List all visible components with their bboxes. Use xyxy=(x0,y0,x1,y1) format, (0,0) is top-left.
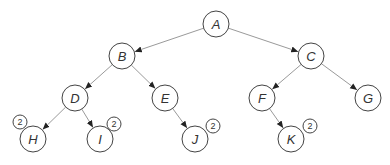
node-h: H2 xyxy=(13,115,46,152)
node-a: A xyxy=(203,11,229,37)
node-label: A xyxy=(211,17,221,32)
node-label: C xyxy=(306,49,316,64)
edge-a-c xyxy=(228,28,298,52)
node-i: I2 xyxy=(87,117,121,152)
node-label: I xyxy=(98,132,102,147)
node-g: G xyxy=(355,85,381,111)
node-c: C xyxy=(298,43,324,69)
edge-f-k xyxy=(270,109,284,128)
node-d: D xyxy=(62,85,88,111)
node-j: J2 xyxy=(182,119,220,152)
node-layer: ABCDEFGH2I2J2K2 xyxy=(13,11,381,152)
edge-d-h xyxy=(43,107,66,129)
edge-b-e xyxy=(131,65,155,88)
edge-d-i xyxy=(82,109,93,127)
edge-a-b xyxy=(135,28,204,51)
node-f: F xyxy=(249,85,275,111)
badge-label: 2 xyxy=(307,121,312,131)
node-label: F xyxy=(258,91,267,106)
node-label: B xyxy=(118,49,127,64)
node-e: E xyxy=(152,85,178,111)
node-label: J xyxy=(191,132,199,147)
node-b: B xyxy=(109,43,135,69)
edge-b-d xyxy=(85,65,112,89)
node-label: H xyxy=(28,132,38,147)
node-k: K2 xyxy=(278,119,317,152)
node-label: G xyxy=(363,91,373,106)
tree-diagram: ABCDEFGH2I2J2K2 xyxy=(0,0,390,165)
badge-label: 2 xyxy=(210,121,215,131)
edge-c-f xyxy=(272,64,301,89)
edge-c-g xyxy=(321,64,357,90)
node-label: E xyxy=(161,91,170,106)
badge-label: 2 xyxy=(17,117,22,127)
node-label: K xyxy=(287,132,297,147)
edge-e-j xyxy=(173,108,187,128)
badge-label: 2 xyxy=(111,119,116,129)
node-label: D xyxy=(70,91,79,106)
